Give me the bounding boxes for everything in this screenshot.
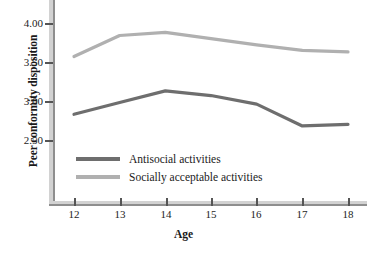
plot-area — [0, 0, 367, 253]
legend-item-socially-acceptable: Socially acceptable activities — [76, 168, 262, 186]
series-line-antisocial — [74, 91, 348, 126]
line-chart-figure: Peer conformity disposition 4.00 3.50 3.… — [0, 0, 367, 253]
legend-swatch-socially-acceptable — [76, 175, 120, 179]
x-axis-label: Age — [0, 228, 367, 240]
legend-label-socially-acceptable: Socially acceptable activities — [129, 171, 262, 183]
chart-legend: Antisocial activities Socially acceptabl… — [76, 150, 262, 186]
legend-label-antisocial: Antisocial activities — [129, 153, 221, 165]
legend-item-antisocial: Antisocial activities — [76, 150, 262, 168]
series-line-socially-acceptable — [74, 32, 348, 56]
legend-swatch-antisocial — [76, 157, 120, 161]
